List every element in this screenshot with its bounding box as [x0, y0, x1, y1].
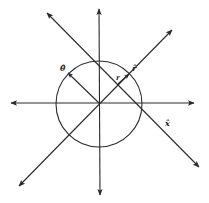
polar-diagram	[0, 0, 209, 203]
x-hat-label: x̂	[165, 119, 170, 127]
vertical-axis	[99, 9, 100, 195]
r-hat-label: r̂	[132, 64, 136, 72]
r-label: r	[116, 74, 120, 81]
theta-hat-label: θ̂	[60, 64, 65, 72]
radial-diagonal-line	[19, 30, 172, 186]
theta-hat-vector	[68, 73, 99, 103]
x-hat-line	[47, 13, 199, 167]
